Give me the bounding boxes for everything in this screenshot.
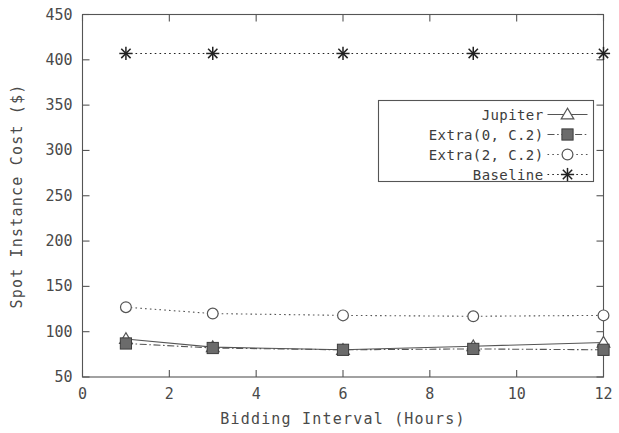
spot-instance-cost-line-chart: 024681012 50100150200250300350400450 Bid… (0, 0, 619, 433)
square-marker (337, 344, 348, 355)
legend-label-1: Extra(0, C.2) (429, 127, 544, 143)
circle-marker (207, 308, 218, 319)
square-marker (562, 129, 573, 140)
x-tick-label-5: 10 (508, 385, 526, 403)
asterisk-marker (336, 47, 349, 60)
x-tick-label-3: 6 (338, 385, 347, 403)
square-marker (207, 342, 218, 353)
circle-marker (121, 302, 132, 313)
legend-label-0: Jupiter (482, 107, 544, 123)
legend-entry-1[interactable]: Extra(0, C.2) (429, 127, 588, 143)
circle-marker (562, 149, 573, 160)
square-marker (120, 338, 131, 349)
legend-label-3: Baseline (473, 167, 544, 183)
x-tick-label-1: 2 (165, 385, 174, 403)
x-tick-label-4: 8 (425, 385, 434, 403)
asterisk-marker (467, 47, 480, 60)
x-tick-label-6: 12 (594, 385, 612, 403)
y-tick-label-6: 350 (45, 96, 72, 114)
y-tick-label-8: 450 (45, 6, 72, 24)
x-axis-title: Bidding Interval (Hours) (220, 410, 466, 428)
y-tick-label-7: 400 (45, 51, 72, 69)
y-tick-label-1: 100 (45, 323, 72, 341)
circle-marker (598, 310, 609, 321)
chart-legend: JupiterExtra(0, C.2)Extra(2, C.2)Baselin… (379, 101, 594, 183)
chart-figure: 024681012 50100150200250300350400450 Bid… (0, 0, 619, 433)
y-axis-tick-labels: 50100150200250300350400450 (45, 6, 72, 387)
circle-marker (468, 311, 479, 322)
y-tick-label-4: 250 (45, 187, 72, 205)
legend-label-2: Extra(2, C.2) (429, 147, 544, 163)
asterisk-marker (561, 168, 574, 181)
asterisk-marker (206, 47, 219, 60)
asterisk-marker (597, 47, 610, 60)
y-tick-label-0: 50 (54, 368, 72, 386)
figure-background (0, 0, 619, 433)
y-tick-label-2: 150 (45, 277, 72, 295)
x-tick-label-0: 0 (78, 385, 87, 403)
y-axis-title: Spot Instance Cost ($) (8, 83, 26, 308)
asterisk-marker (119, 47, 132, 60)
square-marker (468, 343, 479, 354)
square-marker (598, 344, 609, 355)
circle-marker (338, 310, 349, 321)
y-tick-label-5: 300 (45, 141, 72, 159)
y-tick-label-3: 200 (45, 232, 72, 250)
x-tick-label-2: 4 (252, 385, 261, 403)
